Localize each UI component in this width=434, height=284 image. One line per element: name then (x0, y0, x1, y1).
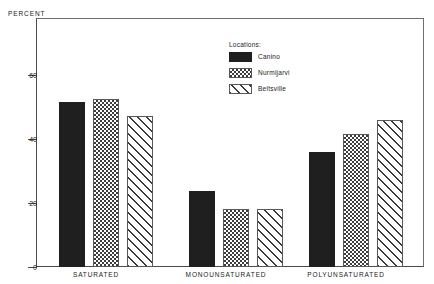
legend-item-canino: Canino (229, 51, 290, 62)
legend-swatch-checkered-icon (229, 68, 252, 78)
bar-group-polyunsaturated (309, 19, 419, 267)
bar-monounsaturated-canino (189, 191, 215, 267)
bar-saturated-beltsville (127, 116, 153, 267)
bar-polyunsaturated-nurmijarvi (343, 134, 369, 267)
y-axis-title: PERCENT (8, 10, 45, 17)
legend-label-canino: Canino (258, 53, 280, 60)
legend-label-nurmijarvi: Nurmijarvi (258, 69, 290, 76)
legend-item-beltsville: Beltsville (229, 83, 290, 94)
bar-group-saturated (59, 19, 169, 267)
legend-item-nurmijarvi: Nurmijarvi (229, 67, 290, 78)
legend-swatch-hatch-icon (229, 84, 252, 94)
bar-polyunsaturated-beltsville (377, 120, 403, 267)
x-axis-label-saturated: SATURATED (73, 271, 119, 278)
x-axis-label-monounsaturated: MONOUNSATURATED (186, 271, 267, 278)
bar-polyunsaturated-canino (309, 152, 335, 267)
legend: Locations: Canino Nurmijarvi Beltsville (229, 41, 290, 99)
x-axis-label-polyunsaturated: POLYUNSATURATED (307, 271, 384, 278)
legend-title: Locations: (229, 41, 290, 48)
y-tick-label-20: 20 (15, 200, 37, 207)
bar-monounsaturated-beltsville (257, 209, 283, 267)
chart-figure: PERCENT 60 40 20 0 SATURATED MONOUNSATUR… (0, 0, 434, 284)
y-tick-label-60: 60 (15, 72, 37, 79)
bar-saturated-nurmijarvi (93, 99, 119, 267)
y-tick-label-0: 0 (15, 264, 37, 271)
legend-label-beltsville: Beltsville (258, 85, 286, 92)
bar-saturated-canino (59, 102, 85, 267)
legend-swatch-solid-icon (229, 52, 252, 62)
y-tick-label-40: 40 (15, 136, 37, 143)
bar-monounsaturated-nurmijarvi (223, 209, 249, 267)
